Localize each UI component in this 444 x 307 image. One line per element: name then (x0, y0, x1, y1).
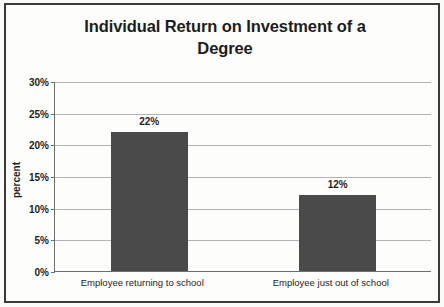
bar: 22% (111, 132, 188, 271)
y-tick-label: 20% (29, 140, 49, 151)
y-tick-mark (51, 209, 55, 210)
y-tick-mark (51, 145, 55, 146)
y-tick-mark (51, 272, 55, 273)
y-axis-title: percent (11, 162, 22, 198)
bar-value-label: 22% (139, 116, 159, 127)
y-tick-label: 5% (35, 235, 49, 246)
y-tick-label: 10% (29, 203, 49, 214)
bar-value-label: 12% (328, 179, 348, 190)
category-label: Employee returning to school (81, 277, 204, 288)
category-label: Employee just out of school (273, 277, 389, 288)
y-tick-mark (51, 240, 55, 241)
y-tick-label: 15% (29, 172, 49, 183)
y-tick-label: 25% (29, 108, 49, 119)
y-tick-label: 0% (35, 267, 49, 278)
y-tick-mark (51, 82, 55, 83)
y-tick-label: 30% (29, 77, 49, 88)
chart-screenshot: Individual Return on Investment of a Deg… (0, 0, 444, 307)
chart-frame: Individual Return on Investment of a Deg… (4, 3, 440, 303)
gridline (55, 82, 431, 83)
bar: 12% (299, 195, 376, 271)
chart-title-line-1: Individual Return on Investment of a (84, 17, 366, 35)
plot-area: 0%5%10%15%20%25%30% 22%12% (54, 82, 431, 272)
y-tick-mark (51, 177, 55, 178)
chart-title-line-2: Degree (197, 39, 252, 57)
gridline (55, 114, 431, 115)
y-tick-mark (51, 114, 55, 115)
chart-title: Individual Return on Investment of a Deg… (34, 15, 416, 59)
